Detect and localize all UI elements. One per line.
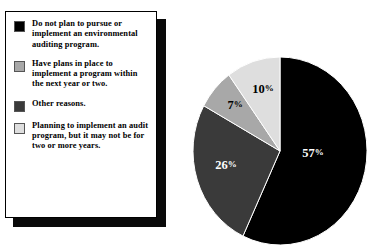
legend-item-plans-in-place: Have plans in place to implement a progr… [14,59,150,90]
legend-label-other-reasons: Other reasons. [32,99,86,109]
pie-slice-group [193,57,367,245]
pie-chart: 57%26%7%10% [193,57,367,245]
legend-label-plans-in-place: Have plans in place to implement a progr… [32,59,150,90]
legend-label-do-not-plan: Do not plan to pursue or implement an en… [32,19,150,50]
legend-swatch-icon-do-not-plan [14,21,25,32]
pie-chart-svg: 57%26%7%10% [193,57,367,245]
legend-item-do-not-plan: Do not plan to pursue or implement an en… [14,19,150,50]
legend-item-planning-two-or-more-years: Planning to implement an audit program, … [14,121,150,152]
legend-item-other-reasons: Other reasons. [14,99,150,112]
legend-panel: Do not plan to pursue or implement an en… [5,11,157,218]
pie-chart-figure: Do not plan to pursue or implement an en… [0,0,374,249]
legend-swatch-icon-other-reasons [14,101,25,112]
legend-swatch-icon-plans-in-place [14,61,25,72]
legend-label-planning-two-or-more-years: Planning to implement an audit program, … [32,121,150,152]
legend-swatch-icon-planning-two-or-more-years [14,123,25,134]
